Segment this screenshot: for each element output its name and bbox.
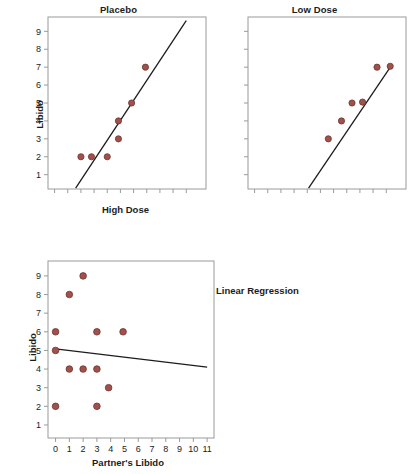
panel-placebo: Placebo 123456789 Libido High Dose [26,4,211,219]
partners-libido-plot-area: 01234567891011123456789 [26,250,216,474]
low-dose-plot-area [230,4,415,219]
svg-text:0: 0 [53,444,58,454]
svg-text:4: 4 [108,444,113,454]
data-point [80,366,87,373]
placebo-plot-area: 123456789 [26,4,211,219]
svg-text:2: 2 [36,152,41,162]
data-point [104,154,110,160]
data-point [387,63,393,69]
svg-text:1: 1 [36,420,41,430]
data-point [66,291,73,298]
svg-text:11: 11 [202,444,211,454]
placebo-x-axis-title: High Dose [40,204,211,215]
data-point [115,136,121,142]
data-point [94,403,101,410]
data-point [88,154,94,160]
data-point [78,154,84,160]
svg-text:6: 6 [136,444,141,454]
plot-frame [248,17,406,189]
data-point [374,64,380,70]
data-point [94,329,101,336]
regression-line [56,349,208,367]
linear-regression-annotation: Linear Regression [216,285,299,296]
plot-frame [48,17,206,189]
data-point [66,366,73,373]
svg-text:1: 1 [36,170,41,180]
panel-low-dose-title: Low Dose [230,4,399,15]
data-point [359,99,365,105]
partner-x-axis-title: Partner's Libido [40,457,216,468]
data-point [129,100,135,106]
svg-text:9: 9 [36,27,41,37]
svg-text:10: 10 [188,444,198,454]
data-point [94,366,101,373]
data-point [349,100,355,106]
regression-line [309,65,392,188]
svg-text:8: 8 [163,444,168,454]
svg-text:2: 2 [81,444,86,454]
data-point [52,403,59,410]
svg-text:8: 8 [36,290,41,300]
data-point [325,136,331,142]
panel-placebo-title: Placebo [26,4,211,15]
svg-text:5: 5 [122,444,127,454]
svg-text:7: 7 [36,62,41,72]
data-point [105,384,112,391]
partner-y-axis-title: Libido [27,318,38,378]
data-point [52,347,59,354]
placebo-y-axis-title: Libido [34,85,45,145]
svg-text:3: 3 [36,383,41,393]
data-point [80,273,87,280]
data-point [142,64,148,70]
panel-low-dose: Low Dose [230,4,415,219]
plot-frame [48,261,214,438]
panel-partners-libido: 01234567891011123456789 Libido Partner's… [26,250,216,474]
data-point [115,118,121,124]
svg-text:3: 3 [94,444,99,454]
svg-text:1: 1 [67,444,72,454]
data-point [338,118,344,124]
svg-text:7: 7 [150,444,155,454]
svg-text:9: 9 [177,444,182,454]
svg-text:8: 8 [36,44,41,54]
data-point [120,329,127,336]
svg-text:2: 2 [36,402,41,412]
data-point [52,329,59,336]
svg-text:9: 9 [36,271,41,281]
